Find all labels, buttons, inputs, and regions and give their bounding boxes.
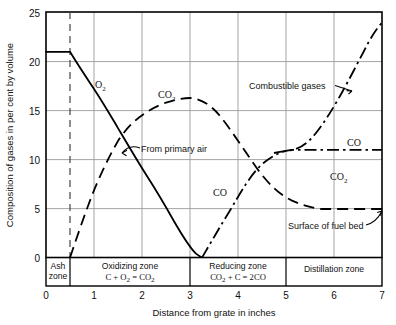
y-tick-5: 5 (34, 204, 40, 215)
y-tick-20: 20 (29, 57, 41, 68)
y-tick-15: 15 (29, 106, 41, 117)
annotation-surface-of-fuel-bed: Surface of fuel bed (288, 221, 364, 231)
y-tick-10: 10 (29, 155, 41, 166)
zone-ash-line1: Ash (51, 261, 66, 271)
curve-label-co-right: CO (347, 137, 361, 148)
y-tick-25: 25 (29, 8, 41, 19)
annotation-from-primary-air: From primary air (141, 144, 207, 154)
zone-label-ash: Ash zone (49, 261, 68, 282)
annotation-combustible-gases: Combustible gases (249, 81, 326, 91)
x-tick-1: 1 (91, 290, 97, 301)
zone-label-oxidizing: Oxidizing zone C + O2 = CO2 (102, 261, 159, 285)
x-tick-6: 6 (331, 290, 337, 301)
zone-distillation-name: Distillation zone (304, 264, 364, 274)
x-tick-0: 0 (43, 290, 49, 301)
x-tick-4: 4 (235, 290, 241, 301)
x-tick-3: 3 (187, 290, 193, 301)
zone-label-distillation: Distillation zone (304, 264, 364, 274)
y-axis-title: Composition of gases in per cent by volu… (4, 43, 15, 227)
zone-reducing-name: Reducing zone (209, 261, 267, 271)
zone-oxidizing-name: Oxidizing zone (102, 261, 159, 271)
chart-svg: O2 CO2 CO CO CO2 From primary air Combus… (0, 0, 396, 325)
x-axis-title: Distance from grate in inches (152, 307, 275, 318)
chart-figure: O2 CO2 CO CO CO2 From primary air Combus… (0, 0, 396, 325)
x-tick-5: 5 (283, 290, 289, 301)
zone-ash-line2: zone (49, 271, 68, 281)
x-tick-2: 2 (139, 290, 145, 301)
x-tick-7: 7 (379, 290, 385, 301)
y-tick-0: 0 (34, 253, 40, 264)
zone-label-reducing: Reducing zone CO2 + C = 2CO (209, 261, 267, 285)
curve-label-co-mid: CO (213, 187, 227, 198)
